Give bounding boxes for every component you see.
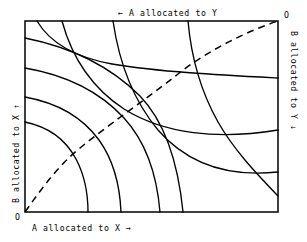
right-axis-label: B allocated to Y ↓ <box>289 31 299 131</box>
b-indifference-curve-2 <box>113 21 278 173</box>
box-outline <box>25 21 278 212</box>
origin-label-b: O <box>284 10 289 20</box>
top-axis-label: ← A allocated to Y <box>118 8 218 18</box>
bottom-axis-label: A allocated to X → <box>32 223 132 233</box>
contract-curve <box>25 21 278 212</box>
left-axis-label: B allocated to X ↑ <box>11 103 21 203</box>
b-indifference-curve-3 <box>62 21 278 135</box>
b-indifference-curve-4 <box>37 21 278 78</box>
b-indifference-curve-1 <box>188 21 278 196</box>
origin-label-a: O <box>15 212 20 222</box>
edgeworth-box-svg: ← A allocated to Y A allocated to X → B … <box>0 0 307 242</box>
a-indifference-curve-2 <box>25 68 160 212</box>
edgeworth-box-figure: ← A allocated to Y A allocated to X → B … <box>0 0 307 242</box>
